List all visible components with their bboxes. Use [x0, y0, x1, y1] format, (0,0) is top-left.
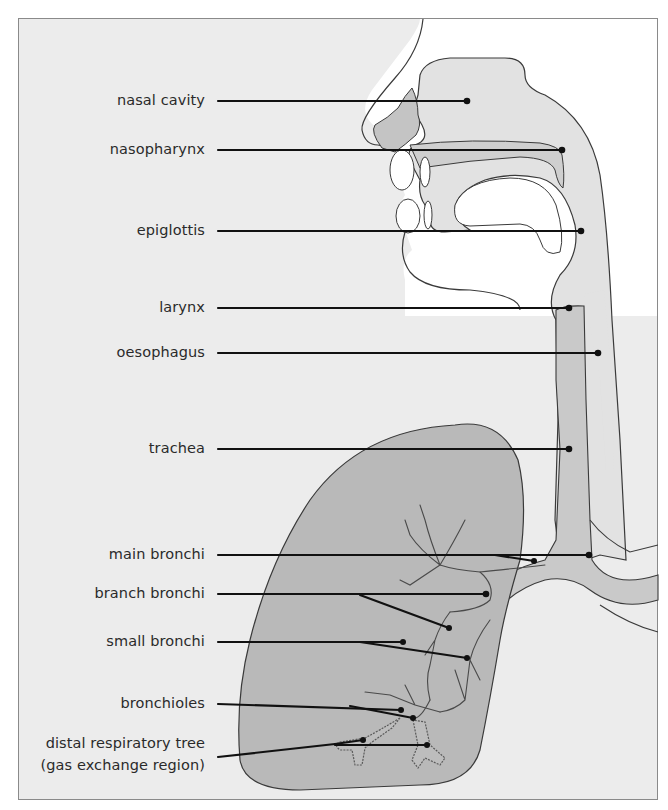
label-trachea: trachea — [149, 440, 205, 457]
label-branch-bronchi: branch bronchi — [94, 585, 205, 602]
upper-tooth — [420, 157, 430, 187]
label-gas-exchange-region: (gas exchange region) — [41, 755, 206, 775]
label-bronchioles: bronchioles — [120, 695, 205, 712]
label-nasal-cavity: nasal cavity — [117, 92, 205, 109]
label-larynx: larynx — [159, 299, 205, 316]
label-nasopharynx: nasopharynx — [110, 141, 205, 158]
label-distal-respiratory-tree: distal respiratory tree — [46, 733, 205, 753]
label-small-bronchi: small bronchi — [106, 633, 205, 650]
respiratory-diagram — [0, 0, 668, 810]
right-bronchus-lower — [600, 605, 658, 632]
label-oesophagus: oesophagus — [117, 344, 205, 361]
label-main-bronchi: main bronchi — [109, 546, 205, 563]
upper-lip — [390, 150, 414, 190]
lower-tooth — [424, 201, 432, 229]
label-epiglottis: epiglottis — [137, 222, 205, 239]
lower-lip — [396, 199, 420, 233]
